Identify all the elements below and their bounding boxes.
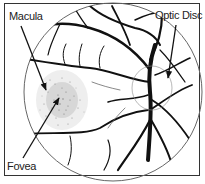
- macula-stipple: [36, 70, 88, 130]
- optic-disc-label: Optic Disc: [155, 10, 202, 21]
- macula-label: Macula: [9, 11, 43, 22]
- optic-disc-arrow: [168, 25, 176, 78]
- retina-diagram: [0, 0, 205, 184]
- fovea-label: Fovea: [7, 161, 36, 172]
